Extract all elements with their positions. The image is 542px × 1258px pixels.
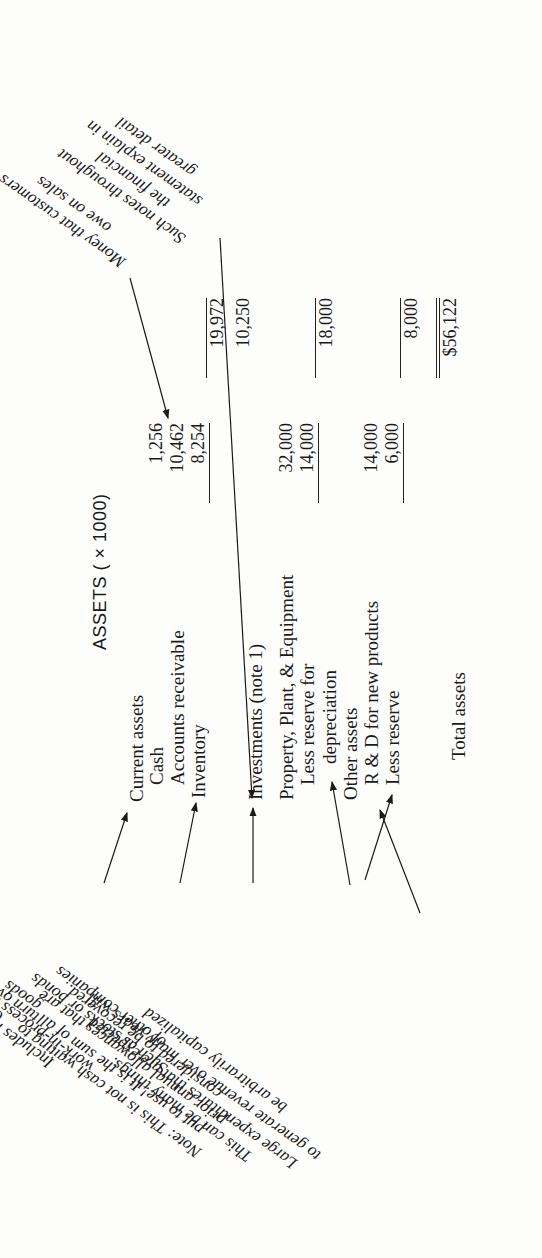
page-title: ASSETS ( × 1000) <box>90 493 111 650</box>
subtotal-other-assets: 8,000 <box>400 298 422 378</box>
value-ppe: 32,000 <box>276 423 297 503</box>
row-label-less-reserve: Less reserve <box>382 691 403 785</box>
row-label-less-reserve-for: Less reserve for <box>297 664 318 785</box>
rotated-balance-sheet-page: ASSETS ( × 1000) Current assets Cash Acc… <box>0 0 542 1258</box>
row-label-investments: Investments (note 1) <box>245 644 266 800</box>
row-label-total-assets: Total assets <box>448 672 469 760</box>
row-label-other-assets: Other assets <box>340 708 361 800</box>
value-inventory: 8,254 <box>188 423 210 503</box>
value-investments: 10,250 <box>233 298 254 378</box>
value-rd: 14,000 <box>361 423 382 503</box>
row-label-depreciation: depreciation <box>319 670 340 764</box>
row-label-current-assets: Current assets <box>126 695 147 802</box>
row-label-cash: Cash <box>146 747 167 785</box>
row-label-rd: R & D for new products <box>361 601 382 785</box>
subtotal-current-assets: 19,972 <box>206 298 228 378</box>
row-label-accounts-receivable: Accounts receivable <box>167 630 188 785</box>
value-less-reserve-depreciation: 14,000 <box>297 423 319 503</box>
value-accounts-receivable: 10,462 <box>167 423 188 503</box>
value-cash: 1,256 <box>146 423 167 503</box>
total-assets-value: $56,122 <box>436 298 461 378</box>
value-less-reserve: 6,000 <box>382 423 404 503</box>
subtotal-ppe: 18,000 <box>315 298 337 378</box>
row-label-inventory: Inventory <box>188 724 209 798</box>
row-label-ppe: Property, Plant, & Equipment <box>276 575 297 800</box>
